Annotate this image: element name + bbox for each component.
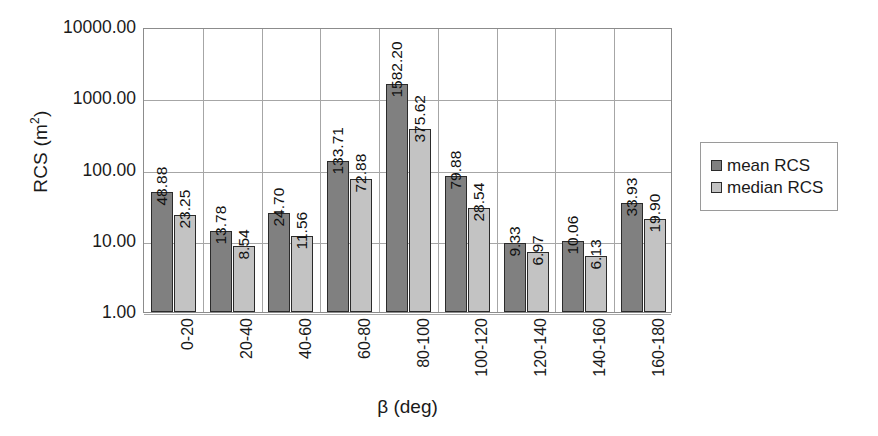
bar-value-label: 11.56 — [294, 212, 310, 250]
x-axis-tick-label: 100-120 — [474, 318, 490, 377]
y-axis-tick-label: 100.00 — [18, 162, 136, 180]
bar-mean — [386, 84, 408, 312]
x-axis-tick-labels: 0-2020-4040-6060-8080-100100-120120-1401… — [143, 318, 672, 390]
legend-label: median RCS — [727, 179, 823, 196]
bar-value-label: 72.88 — [353, 154, 369, 193]
horizontal-gridline — [144, 314, 671, 315]
bar-mean — [151, 192, 173, 312]
x-axis-tick-label: 120-140 — [533, 318, 549, 377]
bar-value-label: 23.25 — [176, 189, 192, 228]
bar-value-label: 79.88 — [447, 151, 463, 190]
bar-value-label: 48.88 — [153, 166, 169, 205]
category-group: 1582.20375.62 — [379, 29, 438, 312]
bar-median — [468, 208, 490, 312]
rcs-bar-chart: RCS (m2) 10000.001000.00100.0010.001.00 … — [0, 0, 878, 436]
bar-mean — [445, 176, 467, 312]
bar-value-label: 375.62 — [411, 95, 427, 142]
bar-value-label: 28.54 — [470, 183, 486, 222]
bar-mean — [268, 213, 290, 312]
y-axis-tick-label: 1000.00 — [18, 91, 136, 109]
bars-layer: 48.8823.2513.788.5424.7011.56133.7172.88… — [144, 29, 671, 312]
bar-value-label: 19.90 — [647, 194, 663, 233]
category-group: 48.8823.25 — [144, 29, 203, 312]
category-group: 9.336.97 — [497, 29, 556, 312]
y-axis-tick-label: 10000.00 — [18, 19, 136, 37]
legend-item: median RCS — [711, 179, 823, 196]
bar-value-label: 13.78 — [212, 206, 228, 245]
x-axis-tick-label: 40-60 — [298, 318, 314, 359]
bar-median — [409, 129, 431, 312]
category-group: 133.7172.88 — [320, 29, 379, 312]
bar-value-label: 10.06 — [565, 215, 581, 254]
legend-swatch-icon — [711, 182, 722, 193]
y-axis-tick-label: 1.00 — [18, 304, 136, 322]
bar-median — [644, 219, 666, 312]
bar-value-label: 9.33 — [506, 226, 522, 256]
bar-mean — [327, 161, 349, 312]
chart-legend: mean RCSmedian RCS — [700, 142, 838, 211]
bar-value-label: 8.54 — [235, 229, 251, 259]
category-group: 10.066.13 — [555, 29, 614, 312]
y-axis-tick-labels: 10000.001000.00100.0010.001.00 — [18, 28, 136, 313]
category-group: 79.8828.54 — [438, 29, 497, 312]
legend-label: mean RCS — [727, 157, 810, 174]
plot-area: 48.8823.2513.788.5424.7011.56133.7172.88… — [143, 28, 672, 313]
bar-median — [174, 215, 196, 312]
category-group: 33.9319.90 — [614, 29, 673, 312]
x-axis-title: β (deg) — [143, 396, 672, 418]
bar-mean — [621, 203, 643, 312]
legend-swatch-icon — [711, 160, 722, 171]
x-axis-tick-label: 160-180 — [651, 318, 667, 377]
x-axis-tick-label: 140-160 — [592, 318, 608, 377]
x-axis-tick-label: 60-80 — [357, 318, 373, 359]
bar-value-label: 24.70 — [271, 187, 287, 226]
bar-value-label: 6.97 — [529, 235, 545, 265]
x-axis-tick-label: 0-20 — [180, 318, 196, 350]
x-axis-tick-label: 20-40 — [239, 318, 255, 359]
bar-median — [350, 179, 372, 312]
x-axis-tick-label: 80-100 — [416, 318, 432, 368]
legend-item: mean RCS — [711, 157, 823, 174]
y-axis-tick-label: 10.00 — [18, 233, 136, 251]
bar-value-label: 133.71 — [330, 127, 346, 174]
bar-value-label: 1582.20 — [388, 42, 404, 98]
category-group: 24.7011.56 — [262, 29, 321, 312]
bar-value-label: 33.93 — [624, 178, 640, 217]
bar-value-label: 6.13 — [588, 239, 604, 269]
category-group: 13.788.54 — [203, 29, 262, 312]
